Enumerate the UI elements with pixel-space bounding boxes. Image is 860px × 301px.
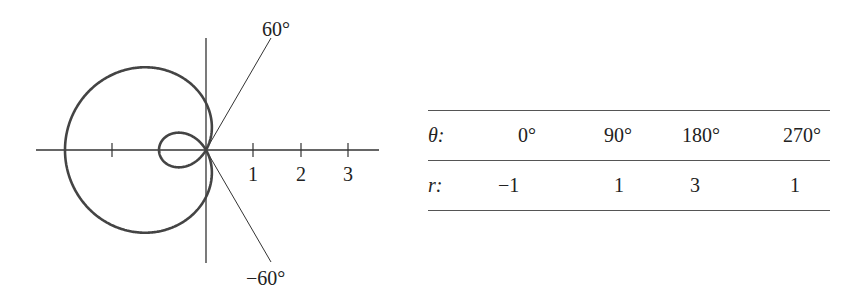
table-rule-bottom	[428, 210, 830, 211]
table-rule-top	[428, 110, 830, 111]
theta-value-90: 90°	[604, 125, 632, 145]
tick-label-1: 1	[248, 163, 258, 185]
theta-value-270: 270°	[783, 125, 821, 145]
theta-value-180: 180°	[682, 125, 720, 145]
r-value-0: −1	[498, 175, 519, 195]
ray-60	[206, 38, 271, 150]
r-label: r:	[428, 175, 442, 195]
ray-label-60: 60°	[262, 18, 290, 40]
r-value-270: 1	[790, 175, 800, 195]
polar-plot: 1 2 3 60° −60°	[0, 0, 400, 301]
tick-label-2: 2	[296, 163, 306, 185]
tick-label-3: 3	[343, 163, 353, 185]
ray-label-minus-60: −60°	[246, 267, 285, 289]
table-rule-middle	[428, 160, 830, 161]
r-value-180: 3	[690, 175, 700, 195]
theta-value-0: 0°	[518, 125, 536, 145]
r-value-90: 1	[614, 175, 624, 195]
ray-minus-60	[206, 150, 271, 262]
theta-label: θ:	[428, 125, 444, 145]
